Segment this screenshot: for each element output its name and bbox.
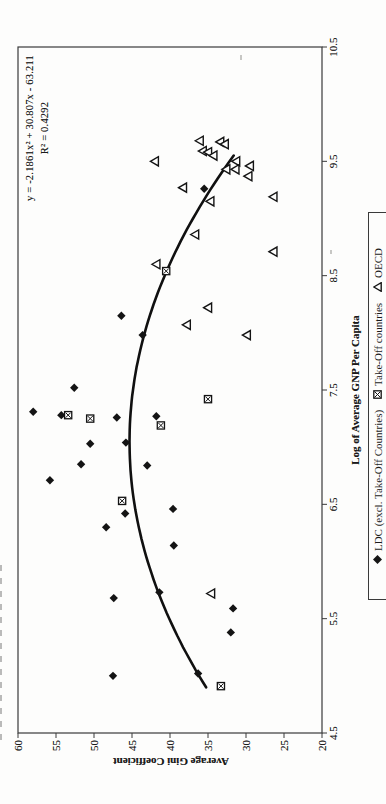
y-tick-label: 35 xyxy=(202,740,214,766)
ldc-point xyxy=(77,460,85,468)
x-tick-label: 5.5 xyxy=(327,602,339,636)
trendline-annotation: y = -2.1861x² + 30.807x - 63.211 R² = 0.… xyxy=(22,38,52,218)
scanned-chart-page: y = -2.1861x² + 30.807x - 63.211 R² = 0.… xyxy=(0,0,386,804)
x-tick-label: 4.5 xyxy=(327,716,339,750)
x-tick-label: 10.5 xyxy=(327,30,339,64)
ldc-point xyxy=(229,604,237,612)
plot-border xyxy=(18,47,322,733)
legend-item-oecd: OECD xyxy=(372,248,384,292)
oecd-point xyxy=(207,589,215,598)
legend-label-takeoff: Take-Off countries xyxy=(372,303,384,386)
oecd-point xyxy=(152,260,160,269)
x-tick-label: 9.5 xyxy=(327,144,339,178)
triangle-icon xyxy=(373,282,382,292)
oecd-point xyxy=(269,247,277,256)
ldc-point xyxy=(227,628,235,636)
oecd-point xyxy=(179,183,187,192)
oecd-point xyxy=(150,157,158,166)
oecd-point xyxy=(242,331,250,340)
y-tick-label: 30 xyxy=(240,740,252,766)
scan-edge-artifact xyxy=(0,560,2,740)
y-tick-label: 40 xyxy=(164,740,176,766)
chart-canvas: y = -2.1861x² + 30.807x - 63.211 R² = 0.… xyxy=(0,0,386,804)
ldc-point xyxy=(110,594,118,602)
y-tick-label: 60 xyxy=(12,740,24,766)
ldc-point xyxy=(152,412,160,420)
ldc-point xyxy=(169,505,177,513)
oecd-point xyxy=(269,192,277,201)
x-tick-label: 8.5 xyxy=(327,259,339,293)
legend-item-ldc: LDC (excl. Take-Off Countries) xyxy=(372,410,384,564)
square-x-icon xyxy=(373,390,382,399)
x-tick-label: 6.5 xyxy=(327,487,339,521)
y-tick-label: 45 xyxy=(126,740,138,766)
trendline-curve xyxy=(130,156,234,688)
y-tick-label: 55 xyxy=(50,740,62,766)
legend-label-oecd: OECD xyxy=(372,248,384,278)
ldc-point xyxy=(29,408,37,416)
y-tick-label: 20 xyxy=(316,740,328,766)
ldc-point xyxy=(113,413,121,421)
oecd-point xyxy=(245,161,253,170)
ldc-point xyxy=(86,440,94,448)
y-tick-label: 50 xyxy=(88,740,100,766)
ldc-point xyxy=(46,476,54,484)
ldc-point xyxy=(109,672,117,680)
oecd-point xyxy=(231,165,239,174)
legend: LDC (excl. Take-Off Countries) Take-Off … xyxy=(368,212,386,600)
ldc-point xyxy=(102,523,110,531)
ldc-point xyxy=(143,461,151,469)
oecd-point xyxy=(182,320,190,329)
oecd-point xyxy=(244,172,252,181)
oecd-point xyxy=(204,303,212,312)
oecd-point xyxy=(206,197,214,206)
oecd-point xyxy=(195,136,203,145)
y-tick-label: 25 xyxy=(278,740,290,766)
r-squared-label: R² = 0.4292 xyxy=(37,38,52,218)
scan-speck xyxy=(330,250,332,254)
ldc-point xyxy=(70,384,78,392)
legend-item-takeoff: Take-Off countries xyxy=(372,303,384,399)
trendline-equation: y = -2.1861x² + 30.807x - 63.211 xyxy=(22,38,37,218)
ldc-point xyxy=(117,311,125,319)
ldc-point xyxy=(200,185,208,193)
diamond-icon xyxy=(373,555,382,564)
ldc-point xyxy=(121,509,129,517)
x-axis-title: Log of Average GNP Per Capita xyxy=(349,270,361,510)
legend-label-ldc: LDC (excl. Take-Off Countries) xyxy=(372,410,384,551)
oecd-point xyxy=(191,230,199,239)
ldc-point xyxy=(170,541,178,549)
x-tick-label: 7.5 xyxy=(327,373,339,407)
scan-speck xyxy=(240,55,242,60)
